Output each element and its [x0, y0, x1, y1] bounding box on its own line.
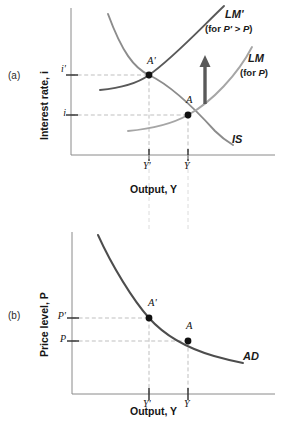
shift-arrow-up-icon	[200, 55, 211, 104]
panel-a-letter: (a)	[8, 70, 20, 81]
panel-b-x-axis-title: Output, Y	[130, 405, 177, 417]
lm-prime-sub-mid: >	[232, 23, 243, 34]
panel-a-y-axis-title: Interest rate, i	[38, 71, 50, 140]
lm-prime-sub-var1: P'	[223, 23, 232, 34]
ad-curve	[98, 235, 243, 363]
panel-b-xtick-label-y-prime: Y'	[143, 398, 151, 409]
lm-curve-label: LM	[248, 52, 264, 64]
panel-a-ytick-label-i: i	[50, 107, 66, 118]
lm-sub-pre: (for	[240, 67, 258, 78]
panel-a-point-label-a: A	[186, 94, 192, 105]
lm-prime-sub-pre: (for	[205, 23, 223, 34]
panel-a-xtick-label-y: Y	[184, 160, 190, 171]
panel-b-point-label-a-prime: A'	[148, 297, 157, 308]
panel-b-letter: (b)	[8, 310, 20, 321]
panel-a-point-label-a-prime: A'	[147, 55, 156, 66]
lm-sub-post: )	[265, 67, 268, 78]
is-curve-label: IS	[232, 133, 242, 145]
point-a-prime-panel-a	[146, 72, 153, 79]
lm-prime-curve-sublabel: (for P' > P)	[205, 23, 252, 34]
point-a-panel-b	[185, 338, 192, 345]
panel-b-ytick-label-p-prime: P'	[48, 310, 66, 321]
point-a-prime-panel-b	[146, 315, 153, 322]
panel-b-point-label-a: A	[186, 320, 192, 331]
lm-curve-sublabel: (for P)	[240, 67, 268, 78]
panel-b-ytick-label-p: P	[48, 333, 66, 344]
panel-b-xtick-label-y: Y	[184, 398, 190, 409]
panel-a-x-axis-title: Output, Y	[130, 183, 177, 195]
panel-a-xtick-label-y-prime: Y'	[143, 160, 151, 171]
point-a-panel-a	[185, 112, 192, 119]
panel-b-y-axis-title: Price level, P	[38, 292, 50, 357]
lm-prime-curve-label: LM'	[225, 8, 244, 20]
lm-prime-sub-post: )	[249, 23, 252, 34]
ad-curve-label: AD	[243, 350, 259, 362]
panel-a-ytick-label-i-prime: i'	[50, 63, 66, 74]
